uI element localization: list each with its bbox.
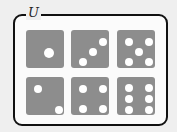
pip <box>145 84 153 92</box>
die-face-1 <box>26 30 64 68</box>
pip <box>135 48 143 56</box>
pip <box>89 48 97 56</box>
pip <box>145 106 153 114</box>
pip <box>55 106 63 114</box>
pip <box>99 105 107 113</box>
pip <box>79 85 87 93</box>
die-face-3 <box>71 30 109 68</box>
die-face-2 <box>26 77 64 115</box>
pip <box>145 58 153 66</box>
die-face-4 <box>71 77 109 115</box>
pip <box>125 106 133 114</box>
pip <box>99 38 107 46</box>
pip <box>44 48 54 58</box>
pip <box>125 84 133 92</box>
pip <box>99 85 107 93</box>
set-label: U <box>26 6 41 20</box>
die-face-6 <box>117 77 155 115</box>
pip <box>79 105 87 113</box>
pip <box>125 95 133 103</box>
die-face-5 <box>117 30 155 68</box>
pip <box>145 95 153 103</box>
pip <box>79 58 87 66</box>
pip <box>34 85 42 93</box>
pip <box>125 38 133 46</box>
pip <box>125 58 133 66</box>
pip <box>145 38 153 46</box>
